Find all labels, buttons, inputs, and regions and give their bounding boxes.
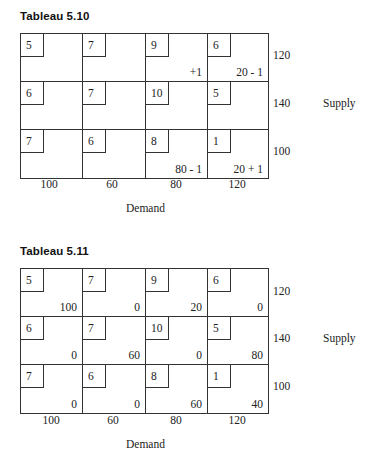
- allocation-value: 0: [257, 301, 263, 313]
- demand-label: Demand: [126, 438, 165, 450]
- grid-cell: 5 100: [21, 269, 83, 316]
- supply-label: Supply: [323, 332, 356, 344]
- allocation-value: 0: [134, 301, 140, 313]
- supply-value-row-1: 120: [273, 285, 290, 297]
- demand-value-col-3: 80: [156, 414, 196, 426]
- demand-value-col-4: 120: [217, 414, 257, 426]
- grid-cell: 7 0: [83, 269, 146, 316]
- grid-cell: 7 60: [83, 317, 146, 364]
- cost-box: 6: [83, 365, 106, 388]
- cost-box: 5: [21, 269, 44, 292]
- allocation-value: 60: [129, 349, 141, 361]
- cost-box: 7: [21, 365, 44, 388]
- cost-box: 8: [146, 365, 169, 388]
- allocation-value: 0: [71, 398, 77, 410]
- grid-cell: 5 80: [208, 317, 268, 364]
- grid-cell: 6 0: [83, 365, 146, 413]
- grid-cell: 10 0: [146, 317, 208, 364]
- tableau-title: Tableau 5.11: [20, 245, 89, 257]
- cost-box: 1: [208, 365, 231, 388]
- supply-value-row-2: 140: [273, 332, 290, 344]
- grid-cell: 8 60: [146, 365, 208, 413]
- cost-box: 10: [146, 317, 169, 340]
- transportation-grid: 5 100 7 0 9 20 6 0 6 0 7 60: [20, 268, 269, 414]
- grid-cell: 1 40: [208, 365, 268, 413]
- cost-box: 7: [83, 317, 106, 340]
- cost-box: 7: [83, 269, 106, 292]
- grid-row-1: 5 100 7 0 9 20 6 0: [21, 269, 268, 317]
- cost-box: 9: [146, 269, 169, 292]
- grid-cell: 6 0: [21, 317, 83, 364]
- grid-row-3: 7 0 6 0 8 60 1 40: [21, 365, 268, 413]
- allocation-value: 60: [191, 398, 203, 410]
- supply-value-row-3: 100: [273, 380, 290, 392]
- allocation-value: 20: [191, 301, 203, 313]
- allocation-value: 40: [252, 398, 264, 410]
- grid-row-2: 6 0 7 60 10 0 5 80: [21, 317, 268, 365]
- tableau-5-11: Tableau 5.11 5 100 7 0 9 20 6 0 6 0: [0, 0, 384, 463]
- cost-box: 6: [208, 269, 231, 292]
- demand-value-col-1: 100: [31, 414, 71, 426]
- grid-cell: 7 0: [21, 365, 83, 413]
- allocation-value: 0: [71, 349, 77, 361]
- allocation-value: 0: [196, 349, 202, 361]
- grid-cell: 6 0: [208, 269, 268, 316]
- demand-value-col-2: 60: [93, 414, 133, 426]
- cost-box: 6: [21, 317, 44, 340]
- cost-box: 5: [208, 317, 231, 340]
- allocation-value: 80: [252, 349, 264, 361]
- allocation-value: 100: [60, 301, 77, 313]
- allocation-value: 0: [134, 398, 140, 410]
- grid-cell: 9 20: [146, 269, 208, 316]
